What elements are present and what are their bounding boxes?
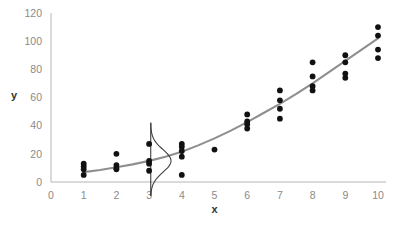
data-point [375,33,381,39]
data-point [342,75,348,81]
y-tick-label: 40 [30,119,42,131]
data-point [342,59,348,65]
data-point [244,112,250,118]
y-tick-label: 80 [30,63,42,75]
y-tick-label: 0 [36,176,42,188]
data-point [342,52,348,58]
data-point [375,55,381,61]
data-point [375,24,381,30]
x-tick-label: 2 [113,189,119,201]
fitted-curve [84,38,378,172]
x-tick-label: 10 [372,189,384,201]
data-point [375,47,381,53]
x-tick-label: 4 [179,189,185,201]
y-axis-title: y [11,89,18,101]
data-point [277,88,283,94]
x-tick-label: 5 [212,189,218,201]
x-tick-label: 8 [310,189,316,201]
data-point [310,59,316,65]
data-point [310,73,316,79]
scatter-chart: 020406080100120012345678910yx [0,0,395,230]
data-point [146,168,152,174]
data-point [81,172,87,178]
data-point [146,141,152,147]
data-point [212,147,218,153]
data-point [244,126,250,132]
data-point [146,161,152,167]
y-tick-label: 60 [30,91,42,103]
data-point [310,88,316,94]
x-tick-label: 1 [81,189,87,201]
y-tick-label: 120 [24,7,42,19]
data-point [179,172,185,178]
y-tick-label: 20 [30,148,42,160]
data-point [179,148,185,154]
plot-area: 020406080100120012345678910yx [0,0,395,230]
x-tick-label: 0 [48,189,54,201]
data-point [81,166,87,172]
y-tick-label: 100 [24,35,42,47]
x-tick-label: 6 [244,189,250,201]
data-point [277,106,283,112]
data-point [114,151,120,157]
data-point [114,166,120,172]
data-point [179,154,185,160]
x-tick-label: 7 [277,189,283,201]
x-axis-title: x [211,203,218,215]
data-point [277,97,283,103]
data-point [277,116,283,122]
x-tick-label: 9 [342,189,348,201]
